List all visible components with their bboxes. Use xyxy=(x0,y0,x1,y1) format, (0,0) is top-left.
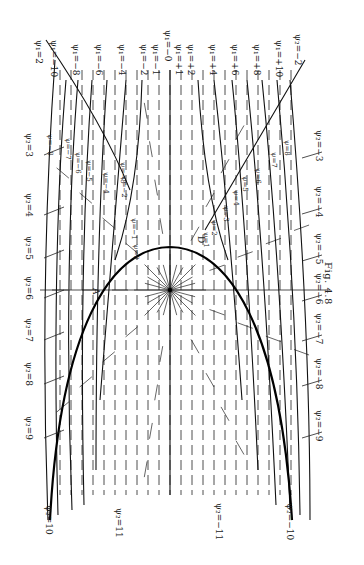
inner-psi-label: ψ=6 xyxy=(254,168,262,184)
left-psi2-label: ψ₂=3 xyxy=(24,133,34,157)
right-psi2-label: ψ₂=−11 xyxy=(214,503,224,540)
inner-psi-label: ψ=−8 xyxy=(46,134,54,156)
top-label: ψ₁=−2 xyxy=(139,44,149,75)
top-label: ψ₁=+10 xyxy=(274,40,284,77)
top-label: ψ₁=−6 xyxy=(94,44,104,75)
top-label: ψ₁=+2 xyxy=(186,44,196,75)
inner-psi-label: ψ=−1 xyxy=(130,218,138,240)
top-label: ψ₁=−1 xyxy=(151,44,161,75)
left-psi2-label: ψ₂=4 xyxy=(24,193,34,217)
top-label: ψ₁=−0 xyxy=(163,30,173,61)
top-label: ψ₁=−10 xyxy=(49,40,59,77)
top-label: ψ₁=2 xyxy=(34,40,44,64)
inner-psi-label: ψ=8 xyxy=(283,140,291,156)
top-label: ψ₁=−4 xyxy=(117,44,127,75)
left-psi2-label: ψ₂=7 xyxy=(24,318,34,342)
right-psi2-label: ψ₂=−8 xyxy=(314,358,324,389)
top-label: ψ₁=−8 xyxy=(71,44,81,75)
left-psi2-label: ψ₂=10 xyxy=(44,505,54,535)
top-label: ψ₁=+1 xyxy=(174,44,184,75)
inner-psi-label: ψ=4 xyxy=(232,190,240,206)
left-psi2-label: ψ₂=11 xyxy=(114,508,124,538)
inner-psi-label: ψ=5 xyxy=(241,176,249,192)
top-label: ψ₁=+6 xyxy=(230,44,240,75)
right-psi2-label: ψ₂=−7 xyxy=(314,313,324,344)
point-label: D xyxy=(196,236,206,243)
right-psi2-label: ψ₂=−5 xyxy=(314,233,324,264)
figure-caption: Fig. 4.8 xyxy=(323,262,334,305)
right-psi2-label: ψ₂=−10 xyxy=(285,503,295,540)
inner-psi-label: ψ=−4 xyxy=(102,172,110,194)
left-psi2-label: ψ₂=6 xyxy=(24,276,34,300)
right-psi2-label: ψ₂=−3 xyxy=(314,130,324,161)
inner-psi-label: ψ=−2 xyxy=(120,176,128,198)
inner-psi-label: ψ=3 xyxy=(222,206,230,222)
inner-psi-label: ψ=−7 xyxy=(64,138,72,160)
inner-psi-label: ψ=0 xyxy=(132,244,140,260)
inner-psi-label: ψ=−6 xyxy=(74,152,82,174)
left-psi2-label: ψ₂=5 xyxy=(24,236,34,260)
inner-psi-label: ψ=7 xyxy=(270,152,278,168)
point-label: A xyxy=(91,288,101,295)
top-label: ψ₂=−2 xyxy=(293,34,303,65)
inner-psi-label: ψ=2 xyxy=(210,220,218,236)
figure-diagram xyxy=(0,0,364,565)
left-psi2-label: ψ₂=9 xyxy=(24,416,34,440)
streamlines xyxy=(45,40,310,520)
left-psi2-label: ψ₂=8 xyxy=(24,362,34,386)
top-label: ψ₁=+4 xyxy=(208,44,218,75)
top-label: ψ₁=+8 xyxy=(252,44,262,75)
right-psi2-label: ψ₂=−9 xyxy=(314,410,324,441)
right-psi2-label: ψ₂=−4 xyxy=(314,186,324,217)
source-point xyxy=(168,288,172,292)
inner-psi-label: ψ=−5 xyxy=(85,160,93,182)
